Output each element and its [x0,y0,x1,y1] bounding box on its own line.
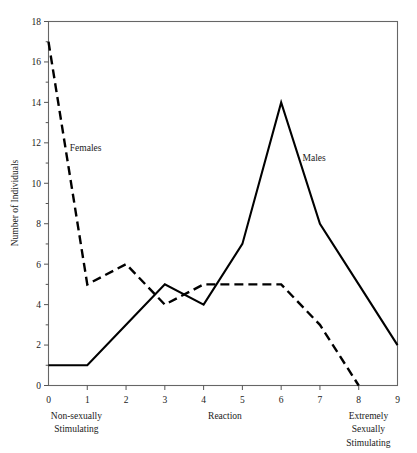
y-axis-tick-label: 16 [32,57,42,67]
x-axis-tick-labels: 0123456789 [46,395,400,405]
x-axis-tick-label: 4 [201,395,206,405]
x-axis-caption-right: Sexually [352,424,385,434]
y-axis-tick-label: 8 [36,219,41,229]
chart-figure: 024681012141618 0123456789 Females Males… [0,0,417,453]
x-axis-tick-label: 6 [279,395,284,405]
data-series-group [49,42,398,386]
x-axis-caption-right: Extremely [349,411,389,421]
series-line-males [49,102,398,365]
x-axis-tick-label: 1 [85,395,90,405]
y-axis-tick-label: 2 [36,340,41,350]
y-axis-tick-label: 4 [36,300,41,310]
series-label-females: Females [70,143,102,153]
y-axis-tick-label: 0 [36,381,41,391]
x-axis-caption-left: Stimulating [54,424,99,434]
y-axis-tick-labels: 024681012141618 [32,17,42,391]
x-axis-ticks [87,386,358,391]
x-axis-tick-label: 7 [318,395,323,405]
y-axis-title: Number of Individuals [10,159,20,246]
y-axis-tick-label: 12 [32,138,42,148]
line-chart-svg: 024681012141618 0123456789 Females Males… [0,0,417,453]
y-axis-tick-label: 10 [32,179,42,189]
x-axis-tick-label: 3 [162,395,167,405]
x-axis-tick-label: 8 [356,395,361,405]
series-line-females [49,42,359,386]
y-axis-tick-label: 18 [32,17,42,27]
x-axis-caption-center: Reaction [208,411,242,421]
x-axis-tick-label: 2 [124,395,129,405]
y-axis-tick-label: 14 [32,98,42,108]
x-axis-caption-right: Stimulating [346,438,391,448]
x-axis-tick-label: 0 [46,395,51,405]
x-axis-tick-label: 5 [240,395,245,405]
series-label-males: Males [302,153,326,163]
x-axis-tick-label: 9 [395,395,400,405]
plot-frame [49,22,398,386]
axis-end-captions: Non-sexuallyStimulatingReactionExtremely… [51,411,391,448]
x-axis-caption-left: Non-sexually [51,411,102,421]
y-axis-tick-label: 6 [36,260,41,270]
y-axis-ticks [44,22,49,386]
